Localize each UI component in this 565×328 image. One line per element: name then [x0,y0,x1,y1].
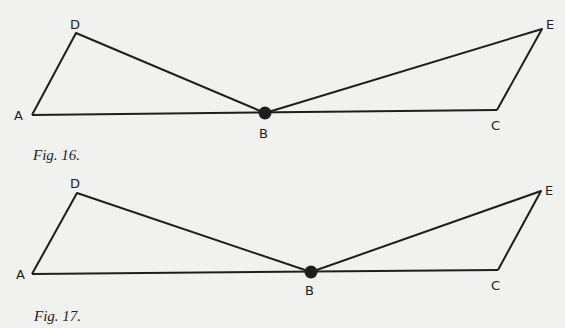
geometry-figures: A D B C E Fig. 16. A D B C E Fig. 17. [0,0,565,328]
label-b: B [259,126,268,141]
label-b: B [305,283,314,298]
label-a: A [14,108,23,123]
caption-fig-16: Fig. 16. [32,147,80,163]
triangle-abd [32,33,265,115]
triangle-bce [311,191,541,272]
point-b-dot [259,107,272,120]
triangle-abd [32,193,311,274]
label-d: D [70,176,80,191]
label-d: D [70,17,80,32]
line-ac [32,270,498,274]
figure-16: A D B C E Fig. 16. [14,17,554,163]
label-c: C [491,278,500,293]
label-e: E [546,17,554,32]
point-b-dot [305,266,318,279]
caption-fig-17: Fig. 17. [33,308,81,324]
label-a: A [16,267,25,282]
label-e: E [545,183,553,198]
figure-17: A D B C E Fig. 17. [16,176,553,324]
label-c: C [491,118,500,133]
triangle-bce [265,29,542,113]
